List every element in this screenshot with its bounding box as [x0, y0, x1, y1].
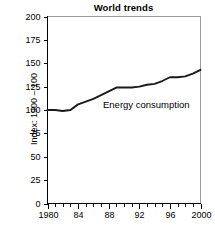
x-tick-label-84: 84	[73, 210, 83, 220]
y-tick-label-200: 200	[25, 12, 40, 22]
series-annotation-energy-consumption: Energy consumption	[103, 99, 190, 110]
y-tick-label-25: 25	[30, 175, 40, 185]
chart-container: World trends Index: 1900 – 100 025507510…	[0, 0, 215, 234]
y-tick-label-50: 50	[30, 152, 40, 162]
x-tick-label-2000: 2000	[191, 210, 211, 220]
x-tick-label-92: 92	[134, 210, 144, 220]
y-axis-ticks: 0255075100125150175200	[25, 12, 47, 209]
y-tick-label-150: 150	[25, 58, 40, 68]
x-axis-ticks: 1980848892962000	[38, 204, 211, 220]
y-tick-label-100: 100	[25, 105, 40, 115]
y-tick-label-75: 75	[30, 128, 40, 138]
x-tick-label-88: 88	[104, 210, 114, 220]
y-tick-label-175: 175	[25, 35, 40, 45]
y-tick-label-0: 0	[35, 199, 40, 209]
plot-area: 0255075100125150175200 1980848892962000 …	[0, 0, 215, 234]
y-tick-label-125: 125	[25, 82, 40, 92]
x-tick-label-96: 96	[165, 210, 175, 220]
x-tick-label-1980: 1980	[38, 210, 58, 220]
